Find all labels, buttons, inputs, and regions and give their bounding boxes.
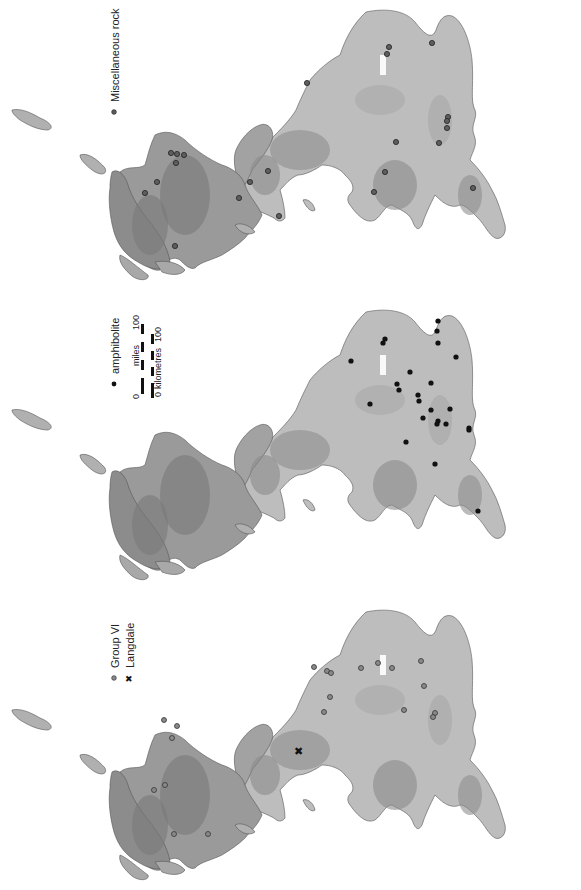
- data-point: [348, 358, 353, 363]
- data-point: [434, 421, 439, 426]
- data-point: [152, 788, 157, 793]
- legend-label-langdale: Langdale: [124, 623, 136, 668]
- data-point: [386, 44, 391, 49]
- data-point: [247, 179, 252, 184]
- data-point: [371, 189, 376, 194]
- data-point: [304, 80, 309, 85]
- data-point: [415, 392, 420, 397]
- data-point: [390, 666, 395, 671]
- map-panel-misc: Miscellaneous rock: [12, 8, 505, 280]
- data-point: [475, 508, 480, 513]
- data-point: [432, 461, 437, 466]
- data-point: [436, 140, 441, 145]
- legend-group-vi: Group VI ✖ Langdale: [109, 623, 136, 684]
- data-point: [181, 152, 186, 157]
- scale-bar: 0 miles 100 0 kilometres 100: [131, 315, 163, 399]
- data-point: [444, 125, 449, 130]
- data-point: [206, 832, 211, 837]
- data-point: [380, 340, 385, 345]
- data-point: [168, 150, 173, 155]
- data-point: [172, 243, 177, 248]
- data-point: [419, 659, 424, 664]
- data-point: [175, 724, 180, 729]
- data-point: [170, 736, 175, 741]
- map-panel-group-vi: Group VI ✖ Langdale ✖: [12, 610, 505, 880]
- data-point: [470, 185, 475, 190]
- scale-miles-start: 0: [131, 394, 141, 399]
- data-point: [453, 354, 458, 359]
- data-point: [265, 168, 270, 173]
- data-point: [431, 715, 436, 720]
- data-point: [382, 169, 387, 174]
- data-point: [276, 213, 281, 218]
- grey-dot-legend-icon: [112, 676, 117, 681]
- data-point: [466, 427, 471, 432]
- data-point: [174, 151, 179, 156]
- data-point: [154, 179, 159, 184]
- cross-icon: ✖: [294, 745, 303, 758]
- data-point: [393, 139, 398, 144]
- data-point: [367, 401, 372, 406]
- data-point: [420, 415, 425, 420]
- data-point: [396, 387, 401, 392]
- data-point: [435, 318, 440, 323]
- data-point: [428, 380, 433, 385]
- data-point: [444, 118, 449, 123]
- legend-amphibolite: amphibolite: [109, 318, 121, 387]
- data-point: [435, 340, 440, 345]
- data-point: [172, 832, 177, 837]
- data-point: [429, 40, 434, 45]
- legend-label-amphibolite: amphibolite: [109, 318, 121, 374]
- legend-label-misc: Miscellaneous rock: [109, 8, 121, 102]
- scale-miles-label: miles: [131, 344, 141, 366]
- data-point: [434, 328, 439, 333]
- scale-miles-end: 100: [131, 315, 141, 330]
- scale-km-end: 100: [153, 327, 163, 342]
- data-point: [394, 381, 399, 386]
- data-point: [428, 407, 433, 412]
- legend-misc: Miscellaneous rock: [109, 8, 121, 114]
- data-point: [384, 51, 389, 56]
- data-point: [402, 708, 407, 713]
- black-dot-legend-icon: [112, 382, 117, 387]
- data-point: [162, 718, 167, 723]
- data-point: [312, 665, 317, 670]
- data-point: [407, 369, 412, 374]
- langdale-marker: ✖: [294, 745, 303, 758]
- data-point: [173, 160, 178, 165]
- data-point: [236, 195, 241, 200]
- data-point: [403, 439, 408, 444]
- data-point: [422, 684, 427, 689]
- data-point: [322, 710, 327, 715]
- data-point: [416, 398, 421, 403]
- grey-dot-legend-icon: [112, 110, 117, 115]
- scale-km-start: 0: [153, 392, 163, 397]
- data-point: [328, 695, 333, 700]
- data-point: [447, 406, 452, 411]
- data-point: [163, 783, 168, 788]
- legend-label-group-vi: Group VI: [109, 624, 121, 668]
- data-point: [329, 671, 334, 676]
- data-point: [142, 190, 147, 195]
- scale-km-label: kilometres: [153, 347, 163, 389]
- data-point: [359, 666, 364, 671]
- data-point: [376, 661, 381, 666]
- cross-legend-icon: ✖: [125, 674, 133, 684]
- figure-canvas: Miscellaneous rock amphibolite 0 miles 1…: [0, 0, 581, 890]
- map-panel-amphibolite: amphibolite 0 miles 100 0 kilometres 100: [12, 310, 505, 580]
- data-point: [443, 421, 448, 426]
